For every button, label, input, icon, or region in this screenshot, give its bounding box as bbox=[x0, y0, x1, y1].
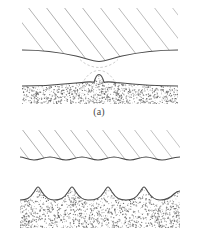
lower-stippled-body-b bbox=[18, 185, 183, 230]
panel-a-caption: (a) bbox=[0, 106, 198, 117]
stipple-fill-a bbox=[19, 73, 180, 106]
undeformed-arc-a bbox=[80, 60, 118, 68]
lower-stippled-body-a bbox=[19, 71, 180, 107]
upper-surface-profile-a bbox=[22, 50, 178, 62]
panel-b: (b) bbox=[0, 124, 198, 248]
hatch-fill-b bbox=[2, 124, 198, 184]
figure-root: (a) bbox=[0, 0, 198, 248]
upper-hatched-body-a bbox=[6, 2, 198, 72]
lower-surface-profile-b bbox=[20, 187, 180, 200]
upper-hatched-body-b bbox=[2, 124, 198, 184]
panel-a: (a) bbox=[0, 0, 198, 124]
panel-b-diagram bbox=[0, 124, 198, 248]
